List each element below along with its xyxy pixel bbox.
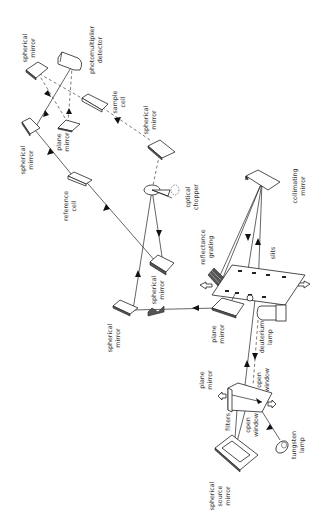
svg-text:mirror: mirror	[206, 370, 213, 390]
svg-text:optical: optical	[184, 186, 192, 207]
svg-text:collimating: collimating	[291, 169, 299, 204]
svg-text:plane: plane	[198, 371, 206, 389]
label-open-window-upper: open window	[255, 368, 270, 392]
svg-text:spherical: spherical	[21, 33, 29, 62]
svg-text:cell: cell	[119, 96, 126, 107]
tungsten-lamp-component	[274, 439, 291, 456]
svg-text:mirror: mirror	[150, 110, 157, 130]
svg-text:mirror: mirror	[218, 324, 225, 344]
label-plane-mirror-upper: plane mirror	[55, 132, 70, 152]
svg-text:slits: slits	[269, 247, 276, 260]
svg-text:reference: reference	[62, 191, 69, 221]
label-spherical-mirror-left: spherical mirror	[19, 145, 34, 174]
svg-text:open: open	[255, 372, 263, 388]
svg-text:mirror: mirror	[299, 176, 306, 196]
svg-text:source: source	[216, 485, 223, 506]
label-plane-mirror-lower: plane mirror	[198, 370, 213, 390]
svg-text:detector: detector	[96, 36, 103, 63]
deuterium-lamp-component	[257, 305, 286, 321]
label-open-window-lower: open window	[244, 413, 259, 437]
svg-text:filters: filters	[224, 413, 231, 431]
label-reflectance-grating: reflectance grating	[199, 229, 215, 264]
label-collimating-mirror: collimating mirror	[291, 169, 306, 204]
label-spherical-mirror-lower: spherical mirror	[106, 323, 121, 352]
optical-chopper-component	[144, 185, 179, 198]
svg-text:plane: plane	[210, 325, 218, 343]
spectrophotometer-optical-diagram: spherical mirror photomultiplier detecto…	[0, 0, 321, 529]
svg-text:reflectance: reflectance	[199, 229, 206, 264]
label-plane-mirror-mid: plane mirror	[210, 324, 225, 344]
svg-text:spherical: spherical	[150, 275, 158, 304]
svg-text:grating: grating	[207, 236, 215, 259]
label-tungsten-lamp: tungsten lamp	[290, 431, 306, 459]
label-slits: slits	[269, 247, 276, 260]
label-spherical-source-mirror: spherical source mirror	[208, 481, 231, 510]
svg-text:spherical: spherical	[142, 105, 150, 134]
svg-text:spherical: spherical	[106, 323, 114, 352]
label-filters: filters	[224, 413, 231, 431]
label-sample-cell: sample cell	[111, 90, 126, 113]
label-optical-chopper: optical chopper	[184, 184, 200, 210]
plane-mirror-upper-component	[58, 120, 80, 132]
collimating-mirror-component	[246, 170, 280, 190]
label-photomultiplier-detector: photomultiplier detector	[88, 25, 103, 74]
svg-text:mirror: mirror	[29, 38, 36, 58]
svg-text:mirror: mirror	[224, 486, 231, 506]
spherical-mirror-top-component	[26, 62, 48, 80]
svg-text:mirror: mirror	[114, 328, 121, 348]
svg-text:photomultiplier: photomultiplier	[88, 25, 96, 74]
svg-text:window: window	[252, 413, 259, 437]
svg-text:chopper: chopper	[192, 184, 200, 210]
svg-text:mirror: mirror	[27, 150, 34, 170]
svg-text:deuterium: deuterium	[258, 321, 265, 354]
svg-text:mirror: mirror	[63, 132, 70, 152]
label-deuterium-lamp: deuterium lamp	[258, 321, 274, 354]
label-spherical-mirror-right: spherical mirror	[142, 105, 157, 134]
svg-text:open: open	[244, 417, 252, 433]
label-spherical-mirror-top: spherical mirror	[21, 33, 36, 62]
svg-text:spherical: spherical	[208, 481, 216, 510]
sample-cell-component	[82, 94, 108, 112]
svg-text:lamp: lamp	[298, 437, 306, 453]
label-reference-cell: reference cell	[62, 191, 77, 221]
svg-text:window: window	[263, 368, 270, 392]
svg-text:sample: sample	[111, 90, 119, 113]
photomultiplier-detector-component	[58, 52, 82, 70]
spherical-mirror-right-component	[148, 140, 175, 160]
svg-text:cell: cell	[70, 200, 77, 211]
svg-text:spherical: spherical	[19, 145, 27, 174]
svg-text:tungsten: tungsten	[290, 431, 298, 459]
label-spherical-mirror-mid: spherical mirror	[150, 275, 165, 304]
spherical-source-mirror-component	[215, 435, 258, 472]
spherical-mirror-mid-component	[150, 255, 174, 275]
svg-text:lamp: lamp	[266, 329, 274, 345]
svg-text:mirror: mirror	[158, 280, 165, 300]
svg-text:plane: plane	[55, 133, 63, 151]
